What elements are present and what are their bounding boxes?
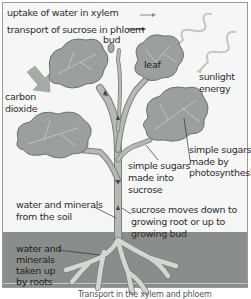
sucrose-made-line-1: simple sugars [128,160,190,171]
xylem-arrow-icon [140,13,156,17]
legend-phloem-label: transport of sucrose in phloem [7,24,144,35]
bud-label: bud [103,34,120,45]
sucrose-moves-line-1: sucrose moves down to [131,204,237,215]
sucrose-moves-line-2: growing root or up to [131,216,225,227]
legend-xylem-label: uptake of water in xylem [7,7,118,18]
sunlight-arrows-icon [171,14,236,73]
roots [66,240,176,292]
roots-line-4: by roots [16,276,52,287]
photosynthesis-line-1: simple sugars [189,144,251,155]
leaf-top-right [135,35,184,81]
sucrose-made-line-3: sucrose [128,184,162,195]
leaf-top-left [49,39,108,88]
water-soil-line-2: from the soil [16,211,72,222]
sunlight-line-2: energy [199,83,230,94]
roots-line-1: water and [16,243,61,254]
sunlight-line-1: sunlight [199,71,235,82]
leaf-left [17,112,91,158]
sucrose-made-line-2: made into [128,172,173,183]
leaf-right [143,87,208,141]
carbon-dioxide-arrow-icon [27,66,50,92]
roots-line-2: minerals [16,254,55,265]
carbon-line-1: carbon [5,91,36,102]
water-soil-line-1: water and minerals [16,199,103,210]
photosynthesis-line-3: photosynthesis [189,167,251,178]
sucrose-moves-line-3: growing bud [131,228,187,239]
leaf-label: leaf [144,59,160,70]
roots-line-3: taken up [16,265,55,276]
figure-caption: Transport in the xylem and phloem [78,290,212,299]
photosynthesis-line-2: made by [189,156,229,167]
carbon-line-2: dioxide [5,103,37,114]
